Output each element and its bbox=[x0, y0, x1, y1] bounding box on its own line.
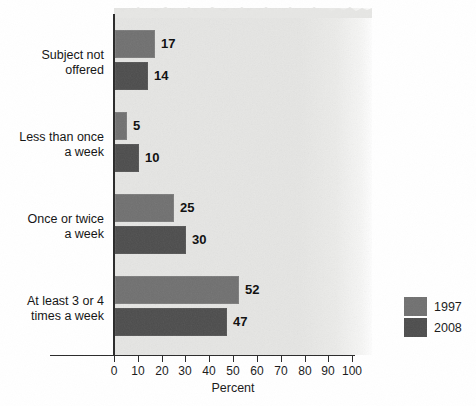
x-axis-tick-20 bbox=[162, 356, 163, 362]
x-axis-title: Percent bbox=[114, 381, 352, 395]
bar-2008-less-than-once-a-week bbox=[115, 144, 139, 172]
category-label-subject-not-offered: Subject not offered bbox=[0, 48, 104, 78]
x-axis-line bbox=[50, 355, 355, 356]
category-label-line: Less than once bbox=[0, 130, 104, 145]
plot-top-edge bbox=[114, 4, 372, 18]
bar-value-2008-subject-not-offered: 14 bbox=[154, 69, 168, 83]
category-label-line: times a week bbox=[0, 309, 104, 324]
category-label-line: offered bbox=[0, 63, 104, 78]
bar-1997-less-than-once-a-week bbox=[115, 112, 127, 140]
bar-value-1997-once-or-twice-a-week: 25 bbox=[180, 201, 194, 215]
x-axis-tick-90 bbox=[328, 356, 329, 362]
x-axis-tick-60 bbox=[257, 356, 258, 362]
legend-swatch-1997 bbox=[404, 297, 427, 316]
bar-chart: 0 10 20 30 40 50 60 70 80 90 100 Percent… bbox=[0, 0, 476, 406]
x-axis-tick-0 bbox=[114, 356, 115, 362]
x-axis-tick-30 bbox=[185, 356, 186, 362]
x-axis-tick-80 bbox=[305, 356, 306, 362]
x-axis-tick-10 bbox=[138, 356, 139, 362]
legend-label-2008: 2008 bbox=[434, 321, 462, 335]
bar-value-2008-at-least-3-or-4-times-a-week: 47 bbox=[233, 315, 247, 329]
category-label-at-least-3-or-4-times-a-week: At least 3 or 4 times a week bbox=[0, 294, 104, 324]
bar-2008-subject-not-offered bbox=[115, 62, 148, 90]
bar-value-1997-less-than-once-a-week: 5 bbox=[133, 119, 140, 133]
legend-item-2008: 2008 bbox=[404, 317, 462, 338]
category-label-line: a week bbox=[0, 227, 104, 242]
legend-label-1997: 1997 bbox=[434, 300, 462, 314]
x-axis-tick-50 bbox=[233, 356, 234, 362]
x-axis-tick-70 bbox=[281, 356, 282, 362]
x-axis-tick-40 bbox=[209, 356, 210, 362]
bar-value-2008-once-or-twice-a-week: 30 bbox=[192, 233, 206, 247]
legend-item-1997: 1997 bbox=[404, 296, 462, 317]
bar-2008-at-least-3-or-4-times-a-week bbox=[115, 308, 227, 336]
x-axis-tick-100 bbox=[352, 356, 353, 362]
x-axis-tick-label-100: 100 bbox=[338, 364, 366, 378]
bar-1997-subject-not-offered bbox=[115, 30, 155, 58]
bar-value-2008-less-than-once-a-week: 10 bbox=[145, 151, 159, 165]
category-label-line: Subject not bbox=[0, 48, 104, 63]
bar-1997-at-least-3-or-4-times-a-week bbox=[115, 276, 239, 304]
category-label-line: Once or twice bbox=[0, 212, 104, 227]
bar-2008-once-or-twice-a-week bbox=[115, 226, 186, 254]
category-label-line: a week bbox=[0, 145, 104, 160]
legend: 1997 2008 bbox=[404, 296, 462, 338]
category-label-less-than-once-a-week: Less than once a week bbox=[0, 130, 104, 160]
legend-swatch-2008 bbox=[404, 318, 427, 337]
bar-value-1997-at-least-3-or-4-times-a-week: 52 bbox=[245, 283, 259, 297]
bar-value-1997-subject-not-offered: 17 bbox=[161, 37, 175, 51]
bar-1997-once-or-twice-a-week bbox=[115, 194, 174, 222]
category-label-once-or-twice-a-week: Once or twice a week bbox=[0, 212, 104, 242]
category-label-line: At least 3 or 4 bbox=[0, 294, 104, 309]
